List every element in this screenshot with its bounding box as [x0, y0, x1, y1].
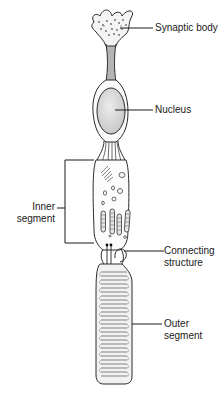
- label-inner-segment-line1: Inner: [17, 201, 55, 213]
- label-inner-segment: Inner segment: [17, 201, 55, 225]
- cell-body: [93, 80, 128, 142]
- label-connecting-structure: Connecting structure: [164, 245, 215, 269]
- label-outer-segment-line2: segment: [164, 330, 202, 342]
- label-nucleus: Nucleus: [155, 104, 191, 116]
- label-synaptic-body: Synaptic body: [155, 22, 218, 34]
- outer-segment-shape: [96, 264, 132, 384]
- connecting-fibers: [96, 141, 126, 162]
- inner-segment-shape: [93, 160, 130, 250]
- inner-segment-bracket: [57, 160, 94, 243]
- axon-fibers: [106, 44, 116, 82]
- label-inner-segment-line2: segment: [17, 213, 55, 225]
- label-connecting-structure-line1: Connecting: [164, 245, 215, 257]
- nucleus-shape: [97, 88, 125, 134]
- label-outer-segment: Outer segment: [164, 318, 202, 342]
- label-outer-segment-line1: Outer: [164, 318, 202, 330]
- label-connecting-structure-line2: structure: [164, 257, 215, 269]
